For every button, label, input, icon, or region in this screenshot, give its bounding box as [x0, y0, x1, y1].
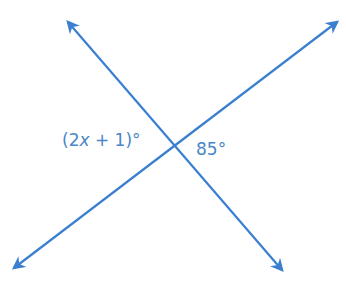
diagram-canvas — [0, 0, 346, 291]
left-angle-label: (2x + 1)° — [62, 132, 141, 149]
left-angle-suffix: + 1)° — [90, 130, 141, 150]
left-angle-prefix: (2 — [62, 130, 79, 150]
angle-diagram: (2x + 1)° 85° — [0, 0, 346, 291]
left-angle-variable: x — [79, 130, 89, 150]
right-angle-label: 85° — [196, 141, 226, 158]
